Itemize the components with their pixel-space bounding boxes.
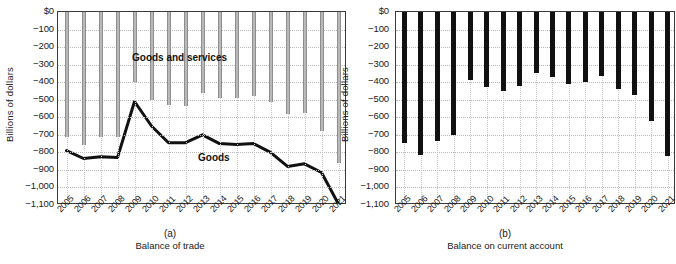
gridline-horizontal [396, 170, 674, 171]
bar-current-account [616, 12, 621, 89]
plot-area-current-account [395, 11, 675, 204]
series-label-goods-and-services: Goods and services [132, 52, 227, 63]
y-tick-label: $0 [345, 6, 389, 16]
gridline-horizontal [396, 152, 674, 153]
y-tick-label: −400 [10, 76, 54, 86]
bar-current-account [534, 12, 539, 73]
bar-current-account [665, 12, 670, 156]
panel-a-tag: (a) [164, 228, 176, 239]
bar-current-account [566, 12, 571, 84]
bar-goods-and-services [286, 12, 290, 114]
y-tick-label: −700 [10, 129, 54, 139]
panel-b-caption: (b) Balance on current account [335, 228, 675, 252]
y-tick-label: $0 [10, 6, 54, 16]
y-tick-label: −100 [345, 24, 389, 34]
y-tick-label: −600 [345, 112, 389, 122]
y-tick-label: −800 [10, 147, 54, 157]
y-tick-label: −900 [10, 164, 54, 174]
bar-current-account [599, 12, 604, 76]
panel-b-tag: (b) [499, 228, 511, 239]
bar-current-account [435, 12, 440, 141]
panel-a-caption-text: Balance of trade [0, 240, 340, 252]
y-tick-label: −200 [10, 41, 54, 51]
bar-current-account [649, 12, 654, 121]
y-tick-label: −300 [10, 59, 54, 69]
series-label-goods: Goods [198, 152, 230, 163]
bar-current-account [517, 12, 522, 86]
bar-current-account [402, 12, 407, 143]
y-tick-label: −100 [10, 24, 54, 34]
y-tick-label: −900 [345, 164, 389, 174]
bar-current-account [451, 12, 456, 135]
y-tick-label: −800 [345, 147, 389, 157]
y-tick-label: −500 [345, 94, 389, 104]
bar-goods-and-services [133, 12, 137, 82]
bar-goods-and-services [252, 12, 256, 96]
y-tick-label: −1,000 [10, 182, 54, 192]
bar-goods-and-services [269, 12, 273, 102]
bar-goods-and-services [303, 12, 307, 113]
plot-area-balance-of-trade [57, 11, 346, 204]
y-axis-ticks-b: $0−100−200−300−400−500−600−700−800−900−1… [335, 0, 389, 264]
bar-current-account [468, 12, 473, 80]
bar-current-account [632, 12, 637, 95]
panel-a-caption: (a) Balance of trade [0, 228, 340, 252]
panel-balance-on-current-account: Billions of dollars $0−100−200−300−400−5… [335, 0, 675, 264]
gridline-horizontal [396, 187, 674, 188]
y-tick-label: −200 [345, 41, 389, 51]
bar-goods-and-services [235, 12, 239, 98]
bar-current-account [583, 12, 588, 82]
y-tick-label: −1,100 [10, 199, 54, 209]
y-tick-label: −400 [345, 76, 389, 86]
bar-goods-and-services [116, 12, 120, 137]
bar-goods-and-services [99, 12, 103, 137]
y-tick-label: −300 [345, 59, 389, 69]
bar-goods-and-services [82, 12, 86, 145]
y-tick-label: −1,100 [345, 199, 389, 209]
y-axis-ticks-a: $0−100−200−300−400−500−600−700−800−900−1… [0, 0, 54, 264]
bar-goods-and-services [320, 12, 324, 131]
y-tick-label: −1,000 [345, 182, 389, 192]
panel-b-caption-text: Balance on current account [335, 240, 675, 252]
bar-goods-and-services [65, 12, 69, 137]
panel-balance-of-trade: Billions of dollars $0−100−200−300−400−5… [0, 0, 340, 264]
y-tick-label: −600 [10, 112, 54, 122]
y-tick-label: −500 [10, 94, 54, 104]
bar-current-account [418, 12, 423, 155]
bar-current-account [550, 12, 555, 77]
bar-current-account [484, 12, 489, 87]
y-tick-label: −700 [345, 129, 389, 139]
bar-current-account [501, 12, 506, 91]
